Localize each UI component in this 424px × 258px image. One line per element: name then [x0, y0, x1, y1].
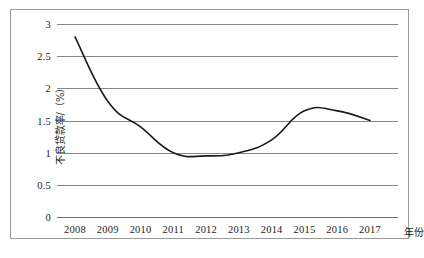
- x-tick-label: 2014: [261, 224, 283, 235]
- y-tick-label: 0.5: [37, 179, 51, 190]
- x-tick-label: 2017: [359, 224, 381, 235]
- gridline-0: 0: [57, 217, 398, 218]
- y-tick-label: 0: [46, 212, 51, 223]
- y-tick-label: 1: [46, 147, 51, 158]
- plot-area: 00.511.522.53 20082009201020112012201320…: [57, 24, 398, 217]
- x-tick-label: 2016: [326, 224, 348, 235]
- chart-frame: 不良贷款率/（%） 00.511.522.53 2008200920102011…: [10, 9, 409, 239]
- x-tick-label: 2011: [163, 224, 184, 235]
- npl-ratio-line: [75, 37, 370, 157]
- x-tick-label: 2009: [97, 224, 119, 235]
- y-tick-label: 1.5: [37, 115, 51, 126]
- y-tick-label: 2: [46, 83, 51, 94]
- series-svg: [57, 24, 398, 217]
- x-tick-label: 2012: [195, 224, 217, 235]
- x-tick-label: 2015: [294, 224, 316, 235]
- x-tick-label: 2013: [228, 224, 250, 235]
- y-tick-label: 2.5: [37, 51, 51, 62]
- y-tick-label: 3: [46, 19, 51, 30]
- x-tick-label: 2010: [130, 224, 152, 235]
- x-tick-label: 2008: [64, 224, 86, 235]
- x-axis-title: 年份: [404, 224, 424, 239]
